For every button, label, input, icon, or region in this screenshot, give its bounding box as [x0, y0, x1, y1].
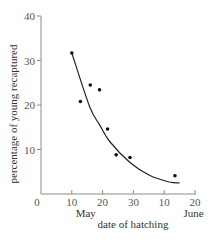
y-axis-ticks: 10203040	[24, 10, 41, 156]
x-tick-label: 20	[97, 196, 109, 208]
data-points	[70, 51, 177, 177]
axes	[41, 16, 196, 194]
data-point	[114, 153, 118, 157]
x-tick-label: 0	[34, 196, 40, 208]
chart-canvas: 10203040 01020301020 MayJune date of hat…	[0, 0, 209, 242]
y-tick-label: 20	[24, 99, 36, 111]
fitted-curve	[72, 53, 180, 183]
data-point	[70, 51, 74, 55]
data-point	[106, 127, 110, 131]
x-axis-title: date of hatching	[98, 218, 169, 230]
x-axis-ticks: 01020301020	[34, 190, 201, 208]
x-tick-label: 30	[128, 196, 140, 208]
y-tick-label: 30	[24, 55, 36, 67]
x-tick-label: 10	[159, 196, 171, 208]
month-label: June	[184, 207, 204, 219]
data-point	[79, 100, 83, 104]
data-point	[88, 83, 92, 87]
data-point	[128, 156, 132, 160]
month-label: May	[76, 207, 97, 219]
y-tick-label: 10	[24, 144, 36, 156]
y-axis-title: percentage of young recaptured	[7, 44, 19, 183]
data-point	[173, 174, 177, 178]
scatter-chart: 10203040 01020301020 MayJune date of hat…	[0, 0, 209, 242]
y-tick-label: 40	[24, 10, 36, 22]
data-point	[98, 88, 102, 92]
